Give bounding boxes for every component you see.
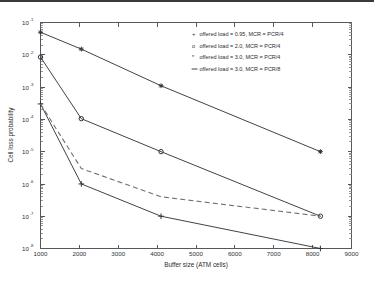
x-tick-label-9000: 9000 bbox=[345, 250, 359, 257]
y-tick-label-1e-6-base: 10 bbox=[22, 181, 29, 188]
legend-label-2: offered load = 3.0, MCR = PCR/4 bbox=[200, 54, 281, 60]
data-point-marker-star bbox=[79, 47, 84, 52]
x-tick-label-7000: 7000 bbox=[267, 250, 281, 257]
legend-label-3: offered load = 3.0, MCR = PCR/8 bbox=[200, 66, 281, 72]
x-tick-label-8000: 8000 bbox=[306, 250, 320, 257]
data-point-marker-star bbox=[38, 30, 43, 35]
legend-marker-2: * bbox=[192, 54, 195, 60]
y-tick-label-1e-4-base: 10 bbox=[22, 116, 29, 123]
series-line-0 bbox=[41, 104, 321, 249]
y-tick-label-1e-8-base: 10 bbox=[22, 245, 29, 252]
y-tick-label-1e-1-base: 10 bbox=[22, 19, 29, 26]
legend-label-0: offered load = 0.95, MCR = PCR/4 bbox=[200, 31, 284, 37]
legend-label-1: offered load = 2.0, MCR = PCR/4 bbox=[200, 43, 281, 49]
x-tick-label-5000: 5000 bbox=[189, 250, 203, 257]
y-tick-label-1e-5-exp: -5 bbox=[30, 147, 34, 152]
data-point-marker-star bbox=[159, 83, 164, 88]
y-axis-minor-ticks bbox=[41, 24, 352, 239]
legend-marker-1: o bbox=[192, 43, 195, 49]
y-tick-label-1e-5-base: 10 bbox=[22, 148, 29, 155]
y-axis-title: Cell loss probability bbox=[7, 107, 15, 163]
y-tick-label-1e-3-base: 10 bbox=[22, 84, 29, 91]
y-tick-label-1e-7-base: 10 bbox=[22, 213, 29, 220]
data-series-1 bbox=[38, 55, 322, 219]
y-tick-labels: 10 -1 10 -2 10 -3 10 -4 10 -5 10 -6 10 -… bbox=[22, 17, 34, 252]
data-point-marker-star bbox=[318, 149, 323, 154]
x-tick-label-4000: 4000 bbox=[150, 250, 164, 257]
x-tick-label-1000: 1000 bbox=[34, 250, 48, 257]
series-line-1 bbox=[41, 57, 321, 216]
y-tick-label-1e-2-exp: -2 bbox=[30, 50, 34, 55]
x-tick-label-6000: 6000 bbox=[228, 250, 242, 257]
chart-plot-area: 1000 2000 3000 4000 5000 6000 7000 8000 … bbox=[0, 0, 374, 291]
y-tick-label-1e-4-exp: -4 bbox=[30, 114, 34, 119]
data-point-marker-plus bbox=[158, 213, 164, 219]
x-tick-labels: 1000 2000 3000 4000 5000 6000 7000 8000 … bbox=[34, 250, 359, 257]
y-tick-label-1e-3-exp: -3 bbox=[30, 82, 34, 87]
legend-marker-0: + bbox=[192, 31, 195, 37]
y-tick-label-1e-8-exp: -8 bbox=[30, 243, 34, 248]
y-tick-label-1e-2-base: 10 bbox=[22, 51, 29, 58]
y-tick-label-1e-7-exp: -7 bbox=[30, 211, 34, 216]
y-tick-label-1e-1-exp: -1 bbox=[30, 17, 34, 22]
data-series-group bbox=[38, 30, 324, 251]
y-tick-label-1e-6-exp: -6 bbox=[30, 179, 34, 184]
x-tick-label-3000: 3000 bbox=[111, 250, 125, 257]
chart-legend: +offered load = 0.95, MCR = PCR/4ooffere… bbox=[192, 31, 283, 72]
data-point-marker-plus bbox=[79, 181, 85, 187]
x-tick-label-2000: 2000 bbox=[73, 250, 87, 257]
x-axis-title: Buffer size (ATM cells) bbox=[164, 261, 228, 269]
data-series-0 bbox=[38, 101, 324, 251]
figure-canvas: 1000 2000 3000 4000 5000 6000 7000 8000 … bbox=[0, 0, 374, 291]
